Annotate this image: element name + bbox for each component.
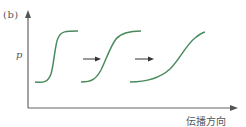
y-axis-arrowhead-icon bbox=[25, 10, 31, 18]
diagram-svg bbox=[0, 0, 246, 127]
waveform-3 bbox=[130, 32, 205, 82]
x-axis-label: 伝播方向 bbox=[186, 113, 226, 127]
panel-label: (b) bbox=[3, 9, 19, 20]
waveform-2 bbox=[81, 31, 141, 82]
arrowhead-icon bbox=[148, 57, 154, 62]
waveform-1 bbox=[35, 31, 78, 82]
x-axis-arrowhead-icon bbox=[230, 105, 238, 111]
figure-canvas: (b) p 伝播方向 bbox=[0, 0, 246, 127]
y-axis-label: p bbox=[16, 49, 22, 60]
arrowhead-icon bbox=[95, 57, 101, 62]
